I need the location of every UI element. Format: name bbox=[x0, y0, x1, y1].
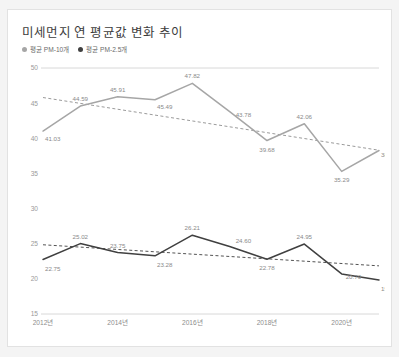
data-point-label: 42.06 bbox=[297, 113, 313, 120]
data-point-label: 39.68 bbox=[259, 146, 275, 153]
chart-legend: 평균 PM-10개 평균 PM-2.5개 bbox=[22, 44, 127, 54]
data-point-label: 25.02 bbox=[73, 233, 89, 240]
data-point-label: 38.26 bbox=[381, 151, 385, 158]
x-axis-tick-label: 2014년 bbox=[107, 318, 128, 326]
legend-dot-icon bbox=[78, 47, 83, 52]
data-point-label: 19.84 bbox=[381, 285, 385, 292]
chart-card: 미세먼지 연 평균값 변화 추이 평균 PM-10개 평균 PM-2.5개 15… bbox=[7, 9, 392, 347]
legend-item-pm25[interactable]: 평균 PM-2.5개 bbox=[78, 44, 127, 54]
y-axis-tick-label: 35 bbox=[31, 170, 39, 177]
y-axis-tick-label: 50 bbox=[31, 64, 39, 71]
legend-label-pm25: 평균 PM-2.5개 bbox=[86, 44, 127, 54]
data-point-label: 24.60 bbox=[236, 237, 252, 244]
data-point-label: 23.75 bbox=[110, 242, 126, 249]
y-axis-tick-label: 20 bbox=[31, 275, 39, 282]
x-axis-tick-label: 2018년 bbox=[257, 318, 278, 326]
data-point-label: 22.75 bbox=[45, 265, 61, 272]
data-point-label: 35.29 bbox=[334, 176, 350, 183]
y-axis-tick-label: 25 bbox=[31, 240, 39, 247]
data-point-label: 43.78 bbox=[236, 111, 252, 118]
x-axis-tick-label: 2012년 bbox=[33, 318, 54, 326]
data-labels: 41.0344.5945.9145.4947.8243.7839.6842.06… bbox=[45, 72, 385, 292]
x-axis-labels: 2012년2014년2016년2018년2020년 bbox=[33, 318, 352, 326]
series-lines bbox=[43, 83, 379, 280]
data-point-label: 24.95 bbox=[297, 233, 313, 240]
data-point-label: 45.49 bbox=[157, 103, 173, 110]
data-point-label: 45.91 bbox=[110, 86, 126, 93]
y-axis-tick-label: 45 bbox=[31, 100, 39, 107]
legend-label-pm10: 평균 PM-10개 bbox=[30, 44, 69, 54]
x-axis-tick-label: 2020년 bbox=[331, 318, 352, 326]
data-point-label: 20.70 bbox=[346, 273, 362, 280]
screenshot-root: 미세먼지 연 평균값 변화 추이 평균 PM-10개 평균 PM-2.5개 15… bbox=[0, 0, 399, 357]
data-point-label: 22.78 bbox=[259, 264, 275, 271]
y-axis-tick-label: 15 bbox=[31, 310, 39, 317]
data-point-label: 26.21 bbox=[185, 224, 201, 231]
series-line bbox=[43, 235, 379, 280]
data-point-label: 44.59 bbox=[73, 95, 89, 102]
legend-item-pm10[interactable]: 평균 PM-10개 bbox=[22, 44, 69, 54]
y-axis-tick-label: 30 bbox=[31, 205, 39, 212]
y-axis-labels: 1520253035404550 bbox=[31, 64, 39, 317]
data-point-label: 47.82 bbox=[185, 72, 201, 79]
y-axis-tick-label: 40 bbox=[31, 135, 39, 142]
legend-dot-icon bbox=[22, 47, 27, 52]
page-title: 미세먼지 연 평균값 변화 추이 bbox=[22, 22, 183, 41]
data-point-label: 41.03 bbox=[45, 135, 61, 142]
chart-plot-area: 1520253035404550 2012년2014년2016년2018년202… bbox=[19, 62, 385, 334]
series-line bbox=[43, 83, 379, 171]
data-point-label: 23.28 bbox=[157, 261, 173, 268]
x-axis-tick-label: 2016년 bbox=[182, 318, 203, 326]
line-chart: 1520253035404550 2012년2014년2016년2018년202… bbox=[19, 62, 385, 334]
trendline bbox=[43, 98, 379, 151]
